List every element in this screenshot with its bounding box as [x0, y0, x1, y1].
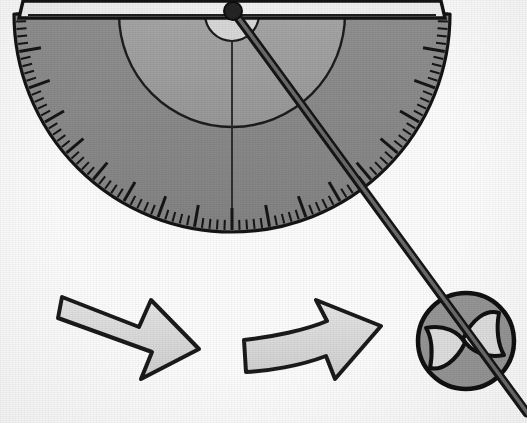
motion-arrow-left-icon [58, 297, 199, 379]
protractor-minor-tick [17, 36, 27, 37]
figure-canvas [0, 0, 527, 423]
protractor-minor-tick [209, 219, 210, 229]
protractor-minor-tick [217, 220, 218, 230]
motion-arrow-right-icon [244, 300, 381, 379]
motion-arrows [58, 297, 381, 379]
protractor-minor-tick [17, 28, 27, 29]
protractor-minor-tick [436, 43, 446, 44]
rod-pivot-knob[interactable] [224, 2, 242, 20]
protractor-minor-tick [246, 220, 247, 230]
protractor-minor-tick [261, 218, 262, 228]
protractor-minor-tick [254, 219, 255, 229]
protractor-minor-tick [437, 36, 447, 37]
protractor[interactable] [14, 1, 450, 232]
protractor-minor-tick [18, 43, 28, 44]
protractor-minor-tick [202, 218, 203, 228]
protractor-minor-tick [438, 28, 448, 29]
protractor-illustration [0, 0, 527, 423]
